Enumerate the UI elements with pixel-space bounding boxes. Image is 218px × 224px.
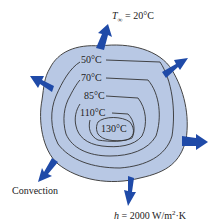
isotherm-label-85: 85°C [84,91,105,101]
isotherm-label-50: 50°C [81,55,102,65]
isotherm-label-70: 70°C [81,73,102,83]
heat-transfer-coefficient-label: h = 2000 W/m2·K [114,210,186,221]
heat-convection-diagram: T∞ = 20°C 50°C 70°C 85°C 110°C 130°C Con… [0,0,218,224]
ambient-temperature-label: T∞ = 20°C [112,11,154,24]
arrow-lower-left-icon [38,158,58,182]
convection-label: Convection [12,186,58,196]
isotherm-label-110: 110°C [80,108,105,118]
isotherm-label-130: 130°C [101,124,127,134]
